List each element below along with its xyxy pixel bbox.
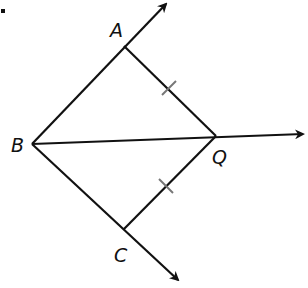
ray-BA (32, 4, 166, 144)
label-Q: Q (212, 146, 227, 168)
ray-BQ (32, 134, 303, 144)
ray-BC (32, 144, 178, 280)
segment-CQ (124, 136, 216, 229)
tick-mark-AQ (162, 81, 176, 95)
segment-AQ (124, 46, 216, 136)
geometry-diagram: A B Q C (0, 0, 308, 288)
label-B: B (11, 134, 24, 156)
problem-bullet (1, 9, 5, 13)
label-C: C (114, 244, 128, 266)
label-A: A (108, 19, 123, 41)
